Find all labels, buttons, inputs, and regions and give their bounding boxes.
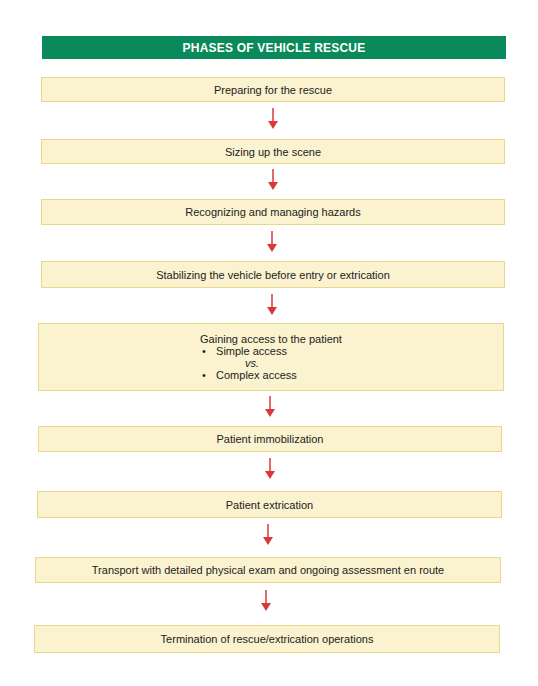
arrow-down-icon bbox=[266, 294, 278, 316]
versus-label: vs. bbox=[200, 357, 342, 369]
step-label: Preparing for the rescue bbox=[214, 84, 332, 96]
step-label: Patient extrication bbox=[226, 499, 313, 511]
arrow-down-icon bbox=[267, 108, 279, 130]
diagram-title: PHASES OF VEHICLE RESCUE bbox=[42, 36, 506, 59]
step-hazards: Recognizing and managing hazards bbox=[41, 199, 505, 225]
step-gaining-access: Gaining access to the patient Simple acc… bbox=[38, 323, 504, 391]
arrow-down-icon bbox=[267, 169, 279, 191]
step-stabilizing: Stabilizing the vehicle before entry or … bbox=[41, 261, 505, 288]
arrow-down-icon bbox=[260, 590, 272, 612]
step-label: Gaining access to the patient bbox=[200, 333, 342, 345]
bullet-simple-access: Simple access bbox=[200, 345, 342, 357]
arrow-down-icon bbox=[262, 524, 274, 546]
step-label: Patient immobilization bbox=[217, 433, 324, 445]
step-immobilization: Patient immobilization bbox=[38, 426, 502, 452]
step-label: Stabilizing the vehicle before entry or … bbox=[156, 269, 390, 281]
step-extrication: Patient extrication bbox=[37, 491, 502, 518]
step-label: Sizing up the scene bbox=[225, 146, 321, 158]
bullet-complex-access: Complex access bbox=[200, 369, 342, 381]
step-label: Transport with detailed physical exam an… bbox=[92, 564, 444, 576]
step-sizing-up: Sizing up the scene bbox=[41, 139, 505, 164]
step-termination: Termination of rescue/extrication operat… bbox=[34, 625, 500, 653]
step-transport: Transport with detailed physical exam an… bbox=[35, 557, 501, 583]
arrow-down-icon bbox=[264, 458, 276, 480]
step-label: Termination of rescue/extrication operat… bbox=[161, 633, 374, 645]
step-preparing: Preparing for the rescue bbox=[41, 77, 505, 102]
step-label: Recognizing and managing hazards bbox=[185, 206, 361, 218]
arrow-down-icon bbox=[264, 396, 276, 418]
step-content: Gaining access to the patient Simple acc… bbox=[200, 333, 342, 381]
arrow-down-icon bbox=[266, 231, 278, 253]
